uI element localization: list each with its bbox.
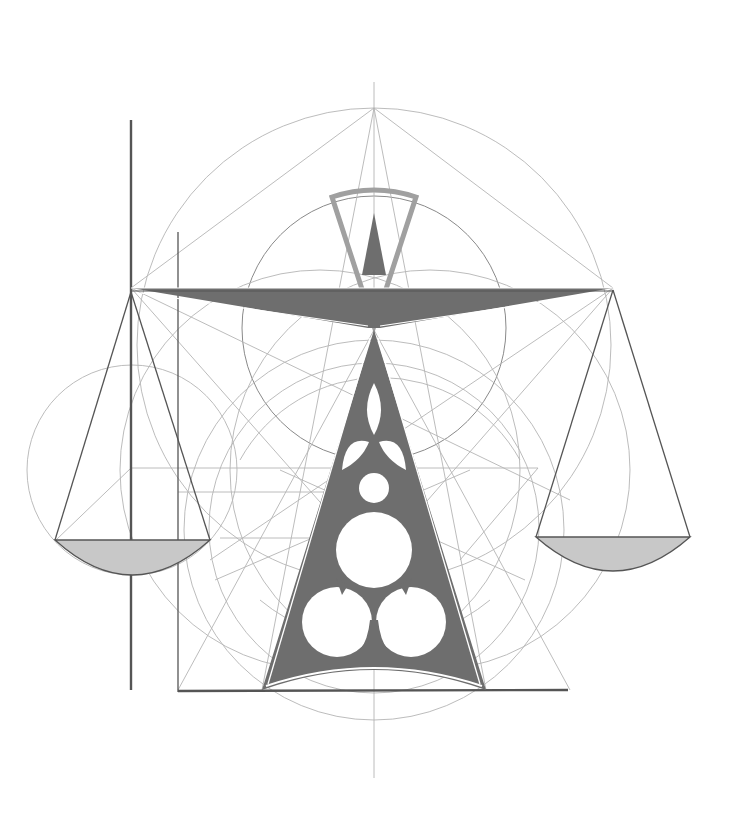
middle-circle-cutout xyxy=(336,512,412,588)
base-line xyxy=(178,690,568,691)
triangular-stand xyxy=(262,330,486,690)
scales-of-justice-construction xyxy=(0,0,733,816)
right-scale-pan xyxy=(536,290,690,571)
construction-guides xyxy=(27,82,630,778)
lower-right-circle-cutout xyxy=(376,587,446,657)
lower-left-circle-cutout xyxy=(302,587,372,657)
left-scale-pan xyxy=(55,292,210,575)
small-circle-cutout xyxy=(359,473,389,503)
